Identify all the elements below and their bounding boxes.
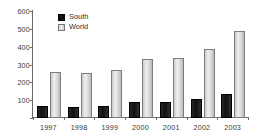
- y-tick-label: 400: [17, 42, 30, 51]
- y-tick-label: 200: [17, 78, 30, 87]
- x-tick-mark: [156, 117, 157, 120]
- y-tick-mark: [30, 65, 33, 66]
- x-axis-label-2003: 2003: [213, 123, 253, 132]
- x-tick-mark: [187, 117, 188, 120]
- y-tick-mark: [30, 47, 33, 48]
- south-swatch-icon: [58, 14, 65, 21]
- legend-item-world: World: [58, 22, 88, 32]
- bar-south-2000: [129, 102, 140, 118]
- bar-south-2001: [160, 102, 171, 118]
- bar-world-2001: [173, 58, 184, 118]
- legend-label: South: [69, 12, 88, 22]
- y-tick-mark: [30, 29, 33, 30]
- x-tick-mark: [248, 117, 249, 120]
- x-tick-mark: [94, 117, 95, 120]
- chart-legend: SouthWorld: [58, 12, 88, 32]
- bar-world-2000: [142, 59, 153, 118]
- bar-world-1997: [50, 72, 61, 118]
- world-swatch-icon: [58, 24, 65, 31]
- x-tick-mark: [33, 117, 34, 120]
- legend-item-south: South: [58, 12, 88, 22]
- bar-world-1998: [81, 73, 92, 118]
- bar-south-1999: [98, 106, 109, 118]
- y-tick-mark: [30, 100, 33, 101]
- bar-south-1998: [68, 107, 79, 118]
- y-tick-label: 300: [17, 60, 30, 69]
- y-tick-label: 500: [17, 24, 30, 33]
- bar-world-2003: [234, 31, 245, 118]
- y-tick-mark: [30, 11, 33, 12]
- x-tick-mark: [217, 117, 218, 120]
- bar-south-2003: [221, 94, 232, 118]
- x-tick-mark: [64, 117, 65, 120]
- legend-label: World: [69, 22, 88, 32]
- y-tick-label: 100: [17, 96, 30, 105]
- y-tick-label: 600: [17, 7, 30, 16]
- y-tick-mark: [30, 82, 33, 83]
- bar-south-2002: [191, 99, 202, 118]
- bar-chart: 100200300400500600 199719981999200020012…: [0, 0, 255, 138]
- bar-world-1999: [111, 70, 122, 118]
- bar-south-1997: [37, 106, 48, 118]
- x-tick-mark: [125, 117, 126, 120]
- bar-world-2002: [204, 49, 215, 118]
